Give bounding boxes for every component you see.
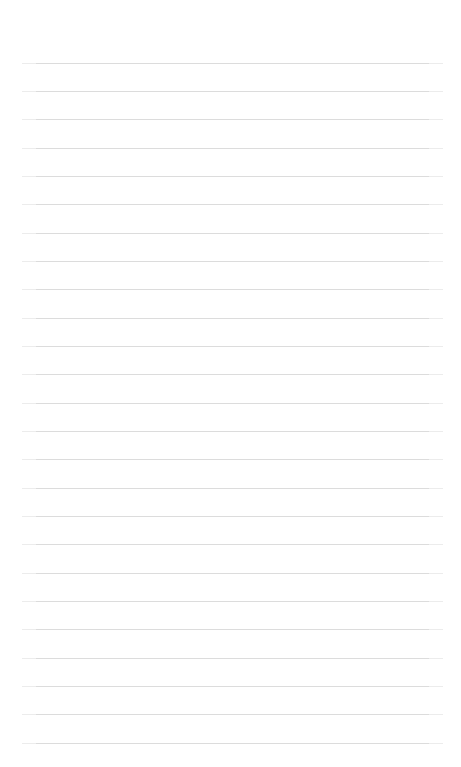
writing-area[interactable] <box>0 0 461 767</box>
notepaper-page <box>0 0 461 767</box>
